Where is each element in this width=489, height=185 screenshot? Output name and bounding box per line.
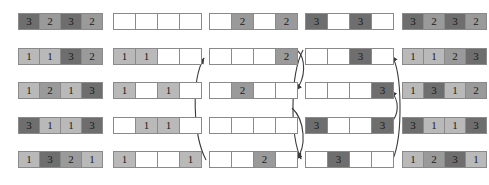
array-cell [253, 82, 276, 99]
array-cell: 2 [231, 82, 254, 99]
array-cell: 1 [39, 48, 61, 65]
table-row: 1 1 2 3 [402, 48, 486, 65]
array-cell [209, 13, 232, 30]
array-cell: 2 [81, 48, 103, 65]
array-cell [371, 13, 394, 30]
array-cell: 2 [81, 13, 103, 30]
array-cell: 2 [253, 151, 276, 168]
array-cell [209, 151, 232, 168]
twos-left-row5-to-row2-arrow [195, 58, 206, 160]
array-cell [157, 13, 180, 30]
array-cell: 2 [39, 82, 61, 99]
table-row: 1 1 3 2 [18, 48, 102, 65]
array-cell: 1 [18, 48, 40, 65]
array-cell: 1 [444, 117, 466, 134]
array-cell: 2 [275, 13, 298, 30]
table-row: 1 3 1 2 [402, 82, 486, 99]
bucket-distribution-diagram: 3 2 3 2 1 1 3 2 1 2 1 3 3 1 1 3 1 3 2 1 [0, 0, 489, 185]
array-cell [305, 82, 328, 99]
array-cell [305, 151, 328, 168]
array-cell: 3 [465, 117, 487, 134]
array-cell: 3 [81, 82, 103, 99]
array-cell: 3 [60, 48, 82, 65]
array-cell: 1 [39, 117, 61, 134]
array-cell [275, 82, 298, 99]
array-cell: 2 [275, 48, 298, 65]
array-cell: 1 [157, 82, 180, 99]
array-cell: 1 [135, 48, 158, 65]
array-cell: 1 [402, 82, 424, 99]
array-cell [327, 82, 350, 99]
array-cell: 1 [135, 117, 158, 134]
table-row: 3 3 [305, 13, 393, 30]
table-row: 3 2 3 2 [18, 13, 102, 30]
table-row: 3 2 3 2 [402, 13, 486, 30]
table-row: 2 [209, 82, 297, 99]
array-cell: 3 [18, 117, 40, 134]
array-cell: 1 [402, 151, 424, 168]
table-row: 1 1 [113, 48, 201, 65]
array-cell [371, 48, 394, 65]
table-row: 3 1 1 3 [402, 117, 486, 134]
array-cell [179, 48, 202, 65]
array-cell: 1 [179, 151, 202, 168]
array-cell [209, 48, 232, 65]
array-cell [113, 13, 136, 30]
table-row: 3 3 [305, 117, 393, 134]
array-cell: 1 [18, 151, 40, 168]
array-cell: 1 [423, 48, 445, 65]
array-cell: 1 [18, 82, 40, 99]
table-row: 2 [209, 48, 297, 65]
array-cell [135, 13, 158, 30]
array-cell: 3 [60, 13, 82, 30]
array-cell: 3 [371, 82, 394, 99]
array-cell: 2 [39, 13, 61, 30]
array-cell [157, 48, 180, 65]
array-cell: 3 [18, 13, 40, 30]
table-row: 3 1 1 3 [18, 117, 102, 134]
array-cell: 3 [39, 151, 61, 168]
array-cell: 1 [465, 151, 487, 168]
array-cell: 3 [444, 151, 466, 168]
array-cell: 1 [60, 117, 82, 134]
array-cell: 3 [327, 151, 350, 168]
array-cell [113, 117, 136, 134]
array-cell [349, 82, 372, 99]
table-row [113, 13, 201, 30]
array-cell [275, 151, 298, 168]
table-row: 1 1 [113, 117, 201, 134]
array-cell [327, 117, 350, 134]
array-cell [231, 117, 254, 134]
array-cell [209, 117, 232, 134]
array-cell [231, 48, 254, 65]
array-cell: 3 [305, 117, 328, 134]
array-cell: 3 [423, 82, 445, 99]
table-row: 2 2 [209, 13, 297, 30]
table-row: 3 [305, 151, 393, 168]
array-cell [327, 48, 350, 65]
table-row: 2 [209, 151, 297, 168]
array-cell: 2 [423, 151, 445, 168]
array-cell: 3 [371, 117, 394, 134]
table-row: 3 [305, 48, 393, 65]
array-cell [253, 13, 276, 30]
array-cell: 1 [157, 117, 180, 134]
array-cell: 1 [113, 151, 136, 168]
array-cell [157, 151, 180, 168]
array-cell [209, 82, 232, 99]
array-cell: 3 [444, 13, 466, 30]
threes-right-row5-to-row2-arrow [392, 56, 400, 159]
array-cell [371, 151, 394, 168]
threes-left-row2-to-row5-arrow [293, 50, 303, 159]
array-cell: 1 [113, 82, 136, 99]
array-cell: 2 [465, 13, 487, 30]
array-cell: 2 [60, 151, 82, 168]
array-cell: 3 [349, 48, 372, 65]
table-row: 1 2 3 1 [402, 151, 486, 168]
array-cell: 3 [402, 13, 424, 30]
array-cell: 3 [349, 13, 372, 30]
table-row: 3 [305, 82, 393, 99]
array-cell: 3 [81, 117, 103, 134]
array-cell: 2 [444, 48, 466, 65]
table-row: 1 1 [113, 82, 201, 99]
